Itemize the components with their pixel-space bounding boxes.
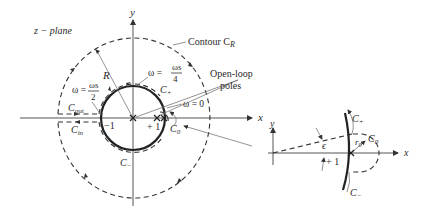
plus-one-label: + 1 <box>147 121 160 132</box>
inset-plot: x y ϵ + 1 C+ C− C0 r0 <box>268 110 409 200</box>
y-axis-label: y <box>129 6 135 18</box>
epsilon-label: ϵ <box>322 140 327 151</box>
contour-leader <box>173 42 186 45</box>
inset-c-zero: C0 <box>368 133 379 146</box>
omega-half-num: ωs <box>89 80 99 90</box>
minus-one-label: −1 <box>104 120 115 131</box>
inset-angle-line <box>273 134 352 153</box>
epsilon-arrow-top <box>316 128 322 139</box>
c-in-label: Cin <box>71 124 84 137</box>
open-loop-label-2: poles <box>220 80 241 91</box>
omega-half-leader <box>92 102 99 112</box>
open-loop-label-1: Open-loop <box>210 68 253 79</box>
inset-plus-one: + 1 <box>326 156 339 167</box>
arrow-icon <box>177 178 182 183</box>
inset-unit-arc <box>343 113 349 190</box>
inset-r0: r0 <box>355 137 363 148</box>
omega-quarter-lhs: ω = <box>148 68 162 78</box>
x-axis-label: x <box>257 111 263 123</box>
omega-quarter-leader <box>136 77 148 86</box>
omega-zero-label: ω = 0 <box>183 99 204 109</box>
omega-quarter-den: 4 <box>173 74 178 84</box>
c-zero-label: C0 <box>170 123 181 136</box>
omega-half-lhs: ω = <box>72 85 86 95</box>
arrow-icon <box>84 173 88 178</box>
arrow-icon <box>70 68 75 72</box>
omega-quarter-num: ωs <box>172 62 182 72</box>
arrow-icon <box>108 86 111 91</box>
inset-x-label: x <box>403 147 409 158</box>
omega-half-den: 2 <box>91 92 96 102</box>
c-minus-label: C− <box>120 157 132 170</box>
main-plot: x y z − plane R <box>20 6 263 206</box>
inset-c-plus: C+ <box>352 113 364 126</box>
arrow-icon <box>95 49 100 54</box>
epsilon-arrow-bottom <box>322 158 324 171</box>
c-plus-label: C+ <box>160 84 172 97</box>
radius-label: R <box>102 69 110 81</box>
contour-label: Contour CR <box>188 36 235 49</box>
inset-leader-line <box>184 126 252 146</box>
inset-y-label: y <box>269 118 275 129</box>
c-out-label: Cout <box>68 102 85 115</box>
nyquist-contour-diagram: x y z − plane R <box>0 0 422 216</box>
plane-label: z − plane <box>33 25 72 36</box>
inset-c-minus: C− <box>350 187 362 200</box>
